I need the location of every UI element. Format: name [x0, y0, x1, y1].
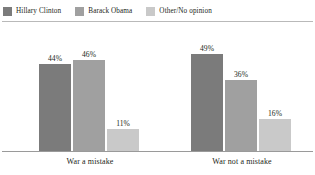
chart-legend: Hillary Clinton Barack Obama Other/No op… [0, 0, 315, 22]
x-axis-category-labels: War a mistake War not a mistake [0, 154, 315, 174]
plot-area: 44% 46% 11% 49% 36% [0, 22, 315, 151]
bar-value-label: 11% [103, 120, 143, 128]
grouped-bar-chart: Hillary Clinton Barack Obama Other/No op… [0, 0, 315, 175]
bar-slot: 46% [72, 22, 106, 151]
legend-item-label: Other/No opinion [159, 7, 212, 16]
bar-value-label: 49% [187, 45, 227, 53]
bar-group-bars: 49% 36% 16% [190, 22, 294, 151]
bar-group-bars: 44% 46% 11% [38, 22, 142, 151]
legend-swatch-icon [146, 7, 155, 16]
bar-slot: 16% [258, 22, 292, 151]
bar-slot: 49% [190, 22, 224, 151]
bar-hillary-clinton [39, 64, 71, 151]
bar-barack-obama [73, 60, 105, 151]
legend-item-label: Hillary Clinton [16, 7, 61, 16]
legend-item-other-no-opinion: Other/No opinion [146, 7, 212, 16]
bar-slot: 11% [106, 22, 140, 151]
legend-swatch-icon [3, 7, 12, 16]
legend-item-barack-obama: Barack Obama [75, 7, 132, 16]
bar-value-label: 16% [255, 110, 295, 118]
bar-value-label: 36% [221, 71, 261, 79]
bar-barack-obama [225, 80, 257, 151]
category-label-war-not-a-mistake: War not a mistake [190, 156, 294, 168]
legend-item-hillary-clinton: Hillary Clinton [3, 7, 61, 16]
bar-slot: 36% [224, 22, 258, 151]
legend-item-label: Barack Obama [88, 7, 132, 16]
bar-group-war-not-a-mistake: 49% 36% 16% [190, 22, 294, 151]
x-axis-baseline [2, 151, 313, 152]
bar-group-war-a-mistake: 44% 46% 11% [38, 22, 142, 151]
bar-slot: 44% [38, 22, 72, 151]
bar-other-no-opinion [259, 119, 291, 151]
category-label-war-a-mistake: War a mistake [38, 156, 142, 168]
bar-other-no-opinion [107, 129, 139, 151]
legend-swatch-icon [75, 7, 84, 16]
bar-hillary-clinton [191, 54, 223, 151]
bar-value-label: 46% [69, 51, 109, 59]
